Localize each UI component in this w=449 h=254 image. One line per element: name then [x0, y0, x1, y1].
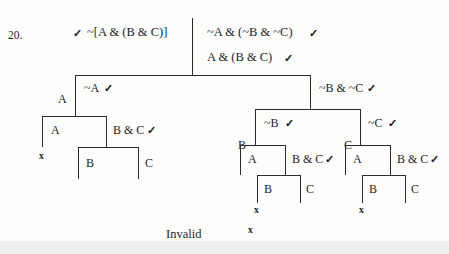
branch-bar-right-left-level-3 — [240, 145, 285, 146]
node-l2-BandC-label: B & C — [113, 124, 144, 136]
node-rl-BandC-check: ✓ — [325, 154, 334, 165]
branch-stem-left-A — [42, 116, 43, 147]
premise-1-formula: ~[A & (B & C)] — [87, 26, 167, 39]
branch-stem-rl-BandC — [285, 145, 286, 175]
node-left-A-label: A — [58, 93, 67, 105]
negated-conclusion-check: ✓ — [284, 53, 293, 64]
verdict-label: Invalid — [166, 228, 201, 241]
closure-left-mark: x — [39, 152, 44, 162]
branch-bar-right-left-level-4 — [257, 175, 300, 176]
node-not-C-check: ✓ — [388, 118, 397, 129]
verdict-open-branch-mark: x — [248, 226, 253, 236]
branch-stem-rl-A — [240, 145, 241, 175]
closure-right-left-mark: x — [254, 206, 259, 216]
node-rl-A-label: A — [248, 153, 257, 165]
premise-1-check: ✓ — [73, 28, 82, 39]
branch-stem-level-1-right — [310, 75, 311, 109]
node-rl-B-label: B — [264, 183, 272, 195]
node-rr-B-label: B — [369, 183, 377, 195]
branch-stem-left-B — [78, 147, 79, 179]
premise-2-check: ✓ — [309, 28, 318, 39]
branch-stem-rl-B — [257, 175, 258, 203]
branch-stem-rr-A — [345, 145, 346, 175]
branch-bar-left-level-2 — [42, 116, 106, 117]
node-l3-B-label: B — [86, 157, 94, 169]
node-rr-BandC-check: ✓ — [430, 154, 439, 165]
scan-artifact-band — [0, 241, 449, 254]
branch-bar-right-right-level-4 — [362, 175, 405, 176]
branch-stem-rr-C — [405, 175, 406, 203]
branch-stem-left-C — [138, 147, 139, 179]
node-rl-BandC-label: B & C — [292, 153, 323, 165]
branch-stem-right-notB — [255, 109, 256, 145]
node-l2-A-label: A — [51, 124, 60, 136]
branch-stem-rr-BandC — [390, 145, 391, 175]
branch-stem-rr-B — [362, 175, 363, 203]
negated-conclusion-formula: A & (B & C) — [207, 51, 272, 64]
branch-stem-right-notC — [360, 109, 361, 145]
premise-2-formula: ~A & (~B & ~C) — [207, 26, 293, 39]
branch-stem-rl-C — [300, 175, 301, 203]
problem-number: 20. — [8, 30, 22, 42]
node-l3-C-label: C — [145, 157, 153, 169]
premise-column-divider — [192, 18, 193, 75]
node-rr-C-label: C — [411, 183, 419, 195]
node-not-C-label: ~C — [368, 117, 383, 129]
node-rl-C-label: C — [306, 183, 314, 195]
node-not-B-check: ✓ — [285, 118, 294, 129]
node-not-A-label: ~A — [84, 82, 99, 94]
node-rr-A-label: A — [353, 153, 362, 165]
branch-bar-left-level-3 — [78, 147, 138, 148]
node-not-B-label: ~B — [264, 117, 279, 129]
node-not-B-not-C-check: ✓ — [367, 83, 376, 94]
branch-bar-level-1 — [75, 75, 311, 76]
closure-right-right-mark: x — [359, 206, 364, 216]
branch-bar-right-right-level-3 — [345, 145, 390, 146]
node-rr-BandC-label: B & C — [397, 153, 428, 165]
branch-bar-right-level-2 — [255, 109, 360, 110]
truth-tree-figure: 20. ✓ ~[A & (B & C)] ~A & (~B & ~C) ✓ A … — [0, 0, 449, 254]
branch-stem-level-1-left — [75, 75, 76, 116]
node-not-B-not-C-label: ~B & ~C — [319, 82, 363, 94]
node-l2-BandC-check: ✓ — [147, 125, 156, 136]
branch-stem-left-BandC — [106, 116, 107, 147]
node-not-A-check: ✓ — [104, 83, 113, 94]
